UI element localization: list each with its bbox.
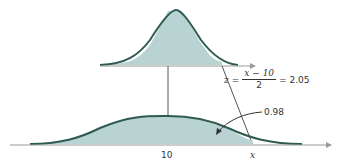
x-tick-label: x <box>250 150 255 160</box>
top-curve-shaded-area <box>110 11 222 65</box>
bottom-axis-arrow <box>326 142 332 148</box>
formula-result: = 2.05 <box>279 75 309 85</box>
formula-fraction: x − 10 2 <box>242 68 276 91</box>
formula-numerator: x − 10 <box>242 68 276 80</box>
formula-lhs: z <box>224 75 229 85</box>
formula-equals: = <box>232 75 240 85</box>
z-score-formula: z = x − 10 2 = 2.05 <box>224 68 310 91</box>
mean-tick-label: 10 <box>161 150 172 160</box>
formula-denominator: 2 <box>256 80 262 91</box>
area-label: 0.98 <box>264 107 284 117</box>
